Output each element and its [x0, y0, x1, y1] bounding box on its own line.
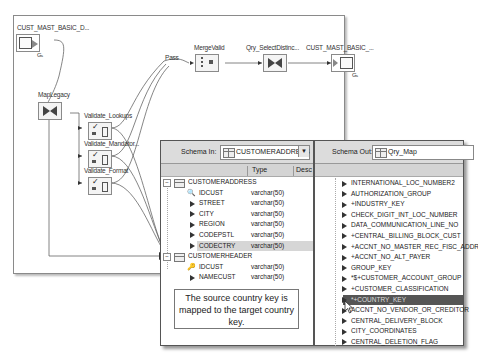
schema-in-label: Schema In:: [181, 148, 216, 155]
out-field-row[interactable]: *$+CUSTOMER_ACCOUNT_GROUP: [315, 273, 463, 284]
column-arrow-icon: [190, 201, 195, 207]
mergevalid-label: MergeValid: [194, 44, 224, 51]
table-name: CUSTOMERADDRESS: [188, 177, 257, 188]
target-table-icon: [331, 54, 355, 72]
out-field-row[interactable]: INTERNATIONAL_LOC_NUMBER2: [315, 178, 463, 189]
column-arrow-icon: [342, 339, 347, 345]
out-field-row[interactable]: +ACCNT_NO_MASTER_REC_FISC_ADDR: [315, 242, 463, 253]
out-field-row[interactable]: +INDUSTRY_KEY: [315, 199, 463, 210]
chevron-down-icon[interactable]: ▼: [298, 146, 309, 157]
column-arrow-icon: [342, 212, 347, 218]
table-name: CUSTOMERHEADER: [188, 251, 252, 262]
column-arrow-icon: [342, 191, 347, 197]
out-field-row[interactable]: CITY_COORDINATES: [315, 326, 463, 337]
out-field-row[interactable]: +CUSTOMER_CLASSIFICATION: [315, 284, 463, 295]
schema-out-column-header: [315, 164, 463, 177]
out-field-row[interactable]: CHECK_DIGIT_INT_LOC_NUMBER: [315, 210, 463, 221]
validation-icon: ✓: [88, 177, 112, 195]
out-field-row[interactable]: CENTRAL_DELETION_FLAG: [315, 337, 463, 348]
mouse-cursor-icon: [344, 300, 354, 314]
out-field-row[interactable]: DATA_COMMUNICATION_LINE_NO: [315, 220, 463, 231]
field-row[interactable]: STREET varchar(50): [161, 198, 313, 209]
field-row[interactable]: 🔑 IDCUST varchar(50): [161, 262, 313, 273]
validation-icon: ✓: [88, 150, 112, 168]
schema-in-toolbar: Schema In: CUSTOMERADDRESS ▼: [161, 141, 313, 164]
pass-port-label: Pass: [165, 54, 179, 61]
tree-node-customeraddress[interactable]: − CUSTOMERADDRESS: [161, 177, 313, 188]
col-desc-header[interactable]: Desc: [296, 166, 312, 173]
validation-icon: ✓: [88, 122, 112, 140]
field-row-highlighted[interactable]: CODECTRY varchar(50): [161, 241, 313, 252]
table-icon: [375, 148, 387, 158]
field-row[interactable]: REGION varchar(50): [161, 219, 313, 230]
column-arrow-icon: [342, 286, 347, 292]
validate-format-label: Validate_Format: [84, 167, 128, 174]
query-icon: [263, 54, 287, 72]
query-icon: [38, 102, 62, 120]
callout-note: The source country key is mapped to the …: [174, 289, 299, 329]
schema-out-toolbar: Schema Out: Qry_Map: [315, 141, 463, 164]
column-arrow-icon: [342, 223, 347, 229]
field-row[interactable]: NAMECUST varchar(50): [161, 272, 313, 283]
column-arrow-icon: [190, 222, 195, 228]
merge-icon: [195, 54, 219, 72]
column-arrow-icon: [342, 202, 347, 208]
schema-out-panel: Schema Out: Qry_Map INTERNATIONAL_LOC_NU…: [315, 141, 463, 345]
source-table-icon: [16, 34, 40, 52]
out-field-row[interactable]: GROUP_KEY: [315, 263, 463, 274]
source-gs-label: Gₛ: [37, 51, 43, 58]
schema-out-value: Qry_Map: [388, 148, 417, 155]
table-icon: [223, 148, 235, 158]
query-mapping-window: Schema In: CUSTOMERADDRESS ▼ Type Desc −…: [160, 140, 464, 346]
schema-in-column-header: Type Desc: [161, 164, 313, 177]
column-arrow-icon: [342, 255, 347, 261]
collapse-icon[interactable]: −: [163, 253, 171, 261]
out-field-row[interactable]: ACCNT_NO_VENDOR_OR_CREDITOR: [315, 305, 463, 316]
target-node-label: CUST_MAST_BASIC_...: [306, 44, 374, 51]
primary-key-icon: 🔑: [187, 262, 196, 273]
tree-node-customerheader[interactable]: − CUSTOMERHEADER: [161, 251, 313, 262]
validate-mandatory-label: Validate_Mandator...: [84, 140, 139, 147]
field-row[interactable]: CODEPSTL varchar(50): [161, 230, 313, 241]
maplegacy-label: MapLegacy: [38, 91, 70, 98]
table-icon: [174, 179, 185, 188]
column-arrow-icon: [190, 275, 195, 281]
column-arrow-icon: [190, 243, 195, 249]
schema-out-tree: INTERNATIONAL_LOC_NUMBER2 AUTHORIZATION_…: [315, 178, 463, 348]
column-arrow-icon: [342, 244, 347, 250]
column-arrow-icon: [190, 211, 195, 217]
target-gs-label: Gₛ: [352, 71, 358, 78]
schema-in-select[interactable]: CUSTOMERADDRESS ▼: [220, 145, 310, 160]
out-field-row[interactable]: +CENTRAL_BILLING_BLOCK_CUST: [315, 231, 463, 242]
schema-out-label: Schema Out:: [332, 148, 373, 155]
column-arrow-icon: [342, 318, 347, 324]
field-row[interactable]: 🔍 IDCUST varchar(50): [161, 188, 313, 199]
table-icon: [174, 253, 185, 262]
column-arrow-icon: [190, 232, 195, 238]
out-field-row[interactable]: AUTHORIZATION_GROUP: [315, 189, 463, 200]
out-field-row[interactable]: CENTRAL_DELIVERY_BLOCK: [315, 316, 463, 327]
primary-key-icon: 🔍: [187, 188, 196, 199]
collapse-icon[interactable]: −: [163, 179, 171, 187]
qry-selectdistinct-label: Qry_SelectDistinc...: [246, 44, 299, 51]
col-type-header[interactable]: Type: [252, 166, 267, 173]
column-arrow-icon: [342, 276, 347, 282]
out-field-row[interactable]: +ACCNT_NO_ALT_PAYER: [315, 252, 463, 263]
column-arrow-icon: [342, 265, 347, 271]
out-field-row-selected[interactable]: *+COUNTRY_KEY: [315, 295, 463, 306]
column-arrow-icon: [342, 181, 347, 187]
schema-in-tree: − CUSTOMERADDRESS 🔍 IDCUST varchar(50) S…: [161, 177, 313, 283]
schema-in-panel: Schema In: CUSTOMERADDRESS ▼ Type Desc −…: [161, 141, 315, 345]
source-node-label: CUST_MAST_BASIC_D...: [17, 24, 89, 31]
validate-lookups-label: Validate_Lookups: [84, 112, 132, 119]
schema-out-select[interactable]: Qry_Map: [372, 145, 474, 160]
column-arrow-icon: [342, 329, 347, 335]
field-row[interactable]: CITY varchar(50): [161, 209, 313, 220]
column-arrow-icon: [342, 233, 347, 239]
